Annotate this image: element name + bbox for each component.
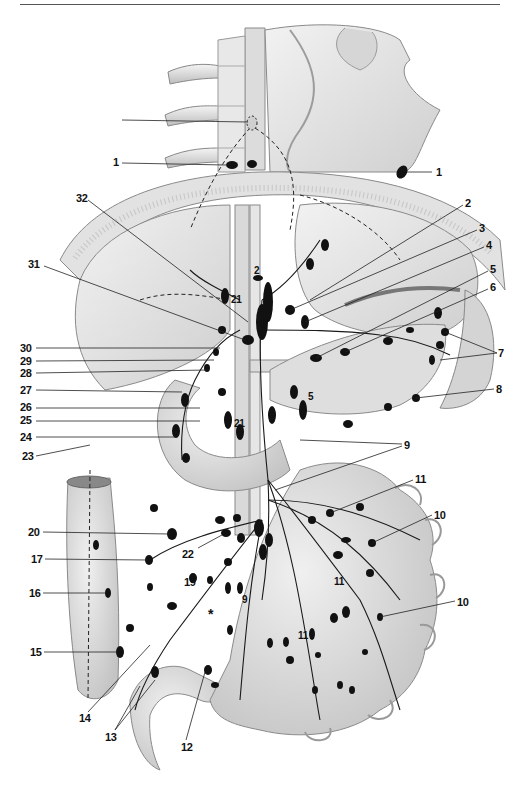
callout-13: 13	[105, 732, 117, 743]
callout-2-inline: 2	[254, 265, 259, 276]
callout-22: 23	[22, 451, 34, 462]
callout-27: 28	[20, 368, 32, 379]
callout-15: 15	[30, 647, 42, 658]
callout-6: 6	[490, 282, 496, 293]
callout-20: 22	[182, 549, 194, 560]
callout-29: 30	[20, 343, 32, 354]
callout-12: 12	[181, 742, 193, 753]
callout-19: 20	[28, 527, 40, 538]
callout-24: 25	[20, 415, 32, 426]
anatomical-illustration	[0, 0, 524, 786]
callout-16: 16	[29, 588, 41, 599]
asterisk-marker: *	[208, 609, 213, 620]
callout-3: 3	[479, 223, 485, 234]
callout-26: 27	[20, 385, 32, 396]
callout-25: 26	[20, 402, 32, 413]
callout-8: 8	[496, 384, 502, 395]
callout-1-right: 1	[436, 167, 442, 178]
callout-21-lower: 21	[234, 418, 245, 429]
callout-28: 29	[20, 356, 32, 367]
callout-17: 17	[31, 554, 43, 565]
callout-5-right: 5	[490, 264, 496, 275]
callout-5-inline: 5	[308, 391, 313, 402]
callout-14: 14	[79, 713, 91, 724]
callout-11-upper: 11	[415, 474, 426, 485]
callout-23: 24	[20, 432, 32, 443]
callout-10-lower: 10	[457, 597, 469, 608]
callout-11-middle: 11	[334, 576, 344, 587]
callout-2-right: 2	[465, 198, 471, 209]
callout-18: 19	[184, 577, 196, 588]
terminal-ileum-appendix	[130, 666, 230, 770]
callout-30: 31	[28, 259, 40, 270]
diaphragm	[165, 25, 440, 172]
callout-31: 32	[76, 193, 88, 204]
callout-1-left: 1	[113, 157, 119, 168]
callout-9-right: 9	[404, 440, 410, 451]
ascending-colon	[67, 470, 119, 700]
callout-9-inline: 9	[242, 594, 247, 605]
callout-21-upper: 21	[231, 294, 242, 305]
callout-7: 7	[498, 348, 504, 359]
callout-11-lower: 11	[298, 630, 308, 641]
callout-4: 4	[486, 240, 492, 251]
pancreas	[270, 324, 446, 414]
diagram-page: 1 1 32 2 3 4 31 5 2 6 21 30 7 29 28 27 8…	[0, 0, 524, 786]
callout-10-upper: 10	[434, 510, 446, 521]
